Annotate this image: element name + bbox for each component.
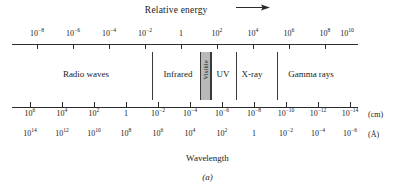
band-divider-1: [211, 52, 212, 100]
top-axis-tick-2: [109, 44, 110, 49]
top-axis-tick-label-8: 108: [320, 30, 331, 38]
top-axis-tick-label-0: 10−8: [30, 30, 44, 38]
top-axis-tick-4: [181, 44, 182, 49]
angstrom-axis-tick-label-9: 10−4: [311, 130, 325, 138]
top-axis-tick-label-3: 10−2: [138, 30, 152, 38]
angstrom-unit-label: (Å): [368, 130, 379, 139]
cm-axis-tick-8: [286, 102, 287, 107]
angstrom-axis-tick-label-2: 1010: [87, 130, 101, 138]
angstrom-axis-tick-label-7: 1: [252, 130, 256, 138]
top-axis-tick-label-4: 1: [179, 30, 183, 38]
cm-axis-tick-label-0: 106: [25, 110, 36, 118]
cm-axis-tick-label-9: 10−12: [310, 110, 327, 118]
top-axis-tick-label-1: 10−6: [66, 30, 80, 38]
band-label-infrared: Infrared: [164, 70, 193, 79]
wavelength-axis-title: Wavelength: [0, 153, 415, 163]
cm-axis-tick-2: [94, 102, 95, 107]
panel-caption: (a): [0, 172, 415, 182]
electromagnetic-spectrum-figure: Relative energy 10−810−610−410−211021041…: [0, 0, 415, 193]
top-axis-tick-6: [253, 44, 254, 49]
cm-axis-tick-7: [254, 102, 255, 107]
cm-unit-label: (cm): [368, 110, 383, 119]
cm-axis-tick-label-8: 10−10: [278, 110, 295, 118]
angstrom-axis-tick-label-6: 102: [217, 130, 228, 138]
band-label-visible: Visible: [201, 60, 208, 80]
band-label-x-ray: X-ray: [242, 70, 263, 79]
top-axis-tick-3: [145, 44, 146, 49]
top-axis-tick-5: [217, 44, 218, 49]
band-divider-2: [236, 52, 237, 100]
band-divider-0: [152, 52, 153, 100]
cm-axis-tick-label-6: 10−6: [215, 110, 229, 118]
top-axis-tick-8: [325, 44, 326, 49]
band-label-gamma-rays: Gamma rays: [288, 70, 334, 79]
arrow-right-icon: [236, 3, 270, 14]
top-axis-tick-1: [73, 44, 74, 49]
top-axis-tick-label-2: 10−4: [102, 30, 116, 38]
band-label-uv: UV: [217, 70, 230, 79]
angstrom-axis-tick-label-1: 1012: [55, 130, 69, 138]
cm-axis-tick-label-3: 1: [124, 110, 128, 118]
cm-axis-tick-label-1: 104: [57, 110, 68, 118]
cm-axis-tick-5: [190, 102, 191, 107]
cm-axis-tick-label-5: 10−4: [183, 110, 197, 118]
angstrom-axis-tick-label-3: 108: [121, 130, 132, 138]
cm-axis-tick-label-7: 10−8: [247, 110, 261, 118]
cm-axis-tick-label-4: 10−2: [151, 110, 165, 118]
cm-axis-tick-3: [126, 102, 127, 107]
cm-axis-tick-label-10: 10−14: [342, 110, 359, 118]
cm-axis-tick-0: [30, 102, 31, 107]
cm-axis-tick-label-2: 102: [89, 110, 100, 118]
band-divider-3: [277, 52, 278, 100]
angstrom-axis-tick-label-10: 10−6: [343, 130, 357, 138]
angstrom-axis-tick-label-4: 106: [153, 130, 164, 138]
top-axis-line: [12, 44, 358, 45]
band-label-radio-waves: Radio waves: [63, 70, 109, 79]
top-axis-tick-7: [289, 44, 290, 49]
angstrom-axis-tick-label-5: 104: [185, 130, 196, 138]
relative-energy-header: Relative energy: [0, 4, 415, 15]
top-axis-tick-label-5: 102: [212, 30, 223, 38]
top-axis-tick-label-6: 104: [248, 30, 259, 38]
angstrom-axis-tick-label-8: 10−2: [279, 130, 293, 138]
relative-energy-label: Relative energy: [145, 5, 208, 15]
cm-axis-tick-9: [318, 102, 319, 107]
cm-axis-tick-6: [222, 102, 223, 107]
top-axis-tick-0: [37, 44, 38, 49]
cm-axis-tick-4: [158, 102, 159, 107]
top-axis-tick-label-9: 1010: [340, 30, 354, 38]
angstrom-axis-tick-label-0: 1014: [23, 130, 37, 138]
cm-axis-tick-10: [350, 102, 351, 107]
top-axis-tick-label-7: 106: [284, 30, 295, 38]
cm-axis-tick-1: [62, 102, 63, 107]
